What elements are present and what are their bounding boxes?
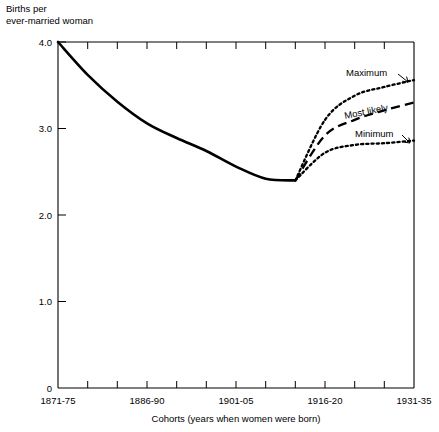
x-tick-label-3: 1886-90 — [130, 395, 165, 406]
y-tick-label-0: 0 — [47, 383, 52, 394]
x-tick-label-12: 1931-35 — [397, 395, 432, 406]
annotation-maximum: Maximum — [346, 67, 387, 78]
y-tick-label-3: 3.0 — [39, 123, 52, 134]
chart-svg: Births per ever-married woman 4.0 3.0 2.… — [0, 0, 439, 432]
y-tick-label-1: 1.0 — [39, 296, 52, 307]
x-axis-caption: Cohorts (years when women were born) — [152, 413, 321, 424]
chart-container: Births per ever-married woman 4.0 3.0 2.… — [0, 0, 439, 432]
y-axis-title-line1: Births per — [6, 3, 47, 14]
y-axis-title-line2: ever-married woman — [6, 15, 93, 26]
x-tick-label-9: 1916-20 — [308, 395, 343, 406]
annotation-minimum: Minimum — [355, 128, 394, 139]
y-tick-label-2: 2.0 — [39, 210, 52, 221]
y-tick-label-4: 4.0 — [39, 37, 52, 48]
x-tick-label-6: 1901-05 — [219, 395, 254, 406]
x-tick-label-0: 1871-75 — [41, 395, 76, 406]
chart-background — [0, 0, 439, 432]
